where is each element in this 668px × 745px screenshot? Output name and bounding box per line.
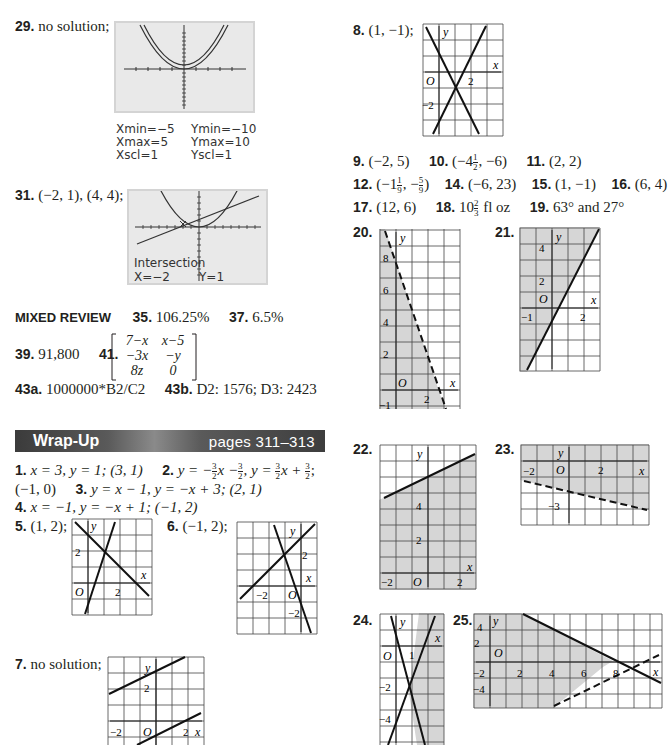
- svg-text:−2: −2: [379, 681, 391, 693]
- svg-text:−2: −2: [288, 607, 300, 619]
- window-settings: Xmin=−5 Xmax=5 Xscl=1: [116, 123, 175, 162]
- svg-text:2: 2: [539, 275, 545, 287]
- svg-text:−4: −4: [473, 683, 485, 695]
- wrap-up-pages: pages 311–313: [209, 433, 315, 450]
- svg-text:4: 4: [416, 500, 422, 512]
- graph-5: y 2 O 2 x: [71, 518, 153, 616]
- wrap-up-title: Wrap-Up: [33, 432, 99, 450]
- answer-29: 29. no solution;: [15, 18, 109, 35]
- graph-7: y 2 −2 O 2 x: [107, 656, 205, 745]
- svg-text:8: 8: [383, 252, 389, 264]
- graph-24: y x O 1 −2 −4: [379, 613, 445, 745]
- svg-text:y: y: [442, 25, 449, 39]
- svg-text:x: x: [638, 464, 645, 478]
- graph-20: y 8 6 4 2 O x 2 −1: [379, 229, 461, 409]
- svg-text:y: y: [399, 231, 406, 245]
- svg-text:2: 2: [468, 75, 474, 87]
- svg-text:O: O: [143, 725, 152, 739]
- graph-23: y −2 O 2 x −3: [520, 444, 650, 526]
- svg-text:O: O: [288, 588, 297, 602]
- svg-text:2: 2: [302, 549, 308, 561]
- svg-text:−2: −2: [422, 99, 434, 111]
- svg-text:O: O: [494, 646, 503, 660]
- svg-text:y: y: [90, 519, 97, 533]
- label-25: 25.: [453, 612, 472, 629]
- svg-text:y: y: [144, 661, 151, 675]
- svg-text:4: 4: [549, 667, 555, 679]
- label-22: 22.: [353, 441, 372, 458]
- answer-8: 8. (1, −1);: [353, 22, 414, 39]
- svg-text:2: 2: [144, 682, 150, 694]
- svg-text:O: O: [556, 463, 565, 477]
- svg-text:−2: −2: [523, 465, 535, 477]
- svg-text:−2: −2: [110, 726, 122, 738]
- answer-39-41: 39. 91,800 41.: [15, 346, 118, 363]
- svg-text:4: 4: [477, 621, 483, 633]
- svg-text:x: x: [140, 568, 147, 582]
- answers-17-19: 17. (12, 6) 18. 1023 fl oz 19. 63° and 2…: [353, 199, 624, 218]
- answer-43: 43a. 1000000*B2/C2 43b. D2: 1576; D3: 24…: [15, 381, 317, 398]
- answer-3: (−1, 0) 3. y = x − 1, y = −x + 3; (2, 1): [15, 481, 262, 498]
- svg-text:x: x: [466, 560, 473, 574]
- label-23: 23.: [495, 441, 514, 458]
- svg-text:x: x: [305, 571, 312, 585]
- svg-text:x: x: [449, 376, 456, 390]
- svg-text:y: y: [399, 615, 406, 629]
- answer-7: 7. no solution;: [15, 656, 102, 673]
- wrap-up-banner: Wrap-Up pages 311–313: [15, 430, 325, 452]
- svg-text:2: 2: [457, 576, 463, 588]
- svg-text:2: 2: [383, 348, 389, 360]
- graph-25: y 4 2 O 2 4 6 8 x −2 −4: [473, 613, 663, 709]
- answer-6: 6. (−1, 2);: [167, 518, 228, 535]
- svg-text:2: 2: [598, 464, 604, 476]
- svg-text:y: y: [557, 446, 564, 460]
- svg-text:2: 2: [75, 546, 81, 558]
- svg-text:2: 2: [517, 667, 523, 679]
- svg-text:O: O: [398, 376, 407, 390]
- matrix-41: 7−x −3x 8z x−5 −y 0: [111, 333, 197, 381]
- svg-text:y: y: [289, 524, 296, 538]
- svg-text:2: 2: [474, 637, 480, 649]
- svg-text:y: y: [492, 614, 499, 628]
- svg-text:O: O: [413, 575, 422, 589]
- answer-5: 5. (1, 2);: [15, 518, 67, 535]
- svg-text:y: y: [416, 447, 423, 461]
- mixed-review-line: MIXED REVIEW 35. 106.25% 37. 6.5%: [15, 309, 284, 326]
- svg-text:−2: −2: [256, 589, 268, 601]
- svg-text:2: 2: [416, 534, 422, 546]
- calculator-screen-29: [114, 21, 255, 113]
- svg-text:4: 4: [383, 316, 389, 328]
- svg-text:O: O: [426, 74, 435, 88]
- svg-text:x: x: [492, 58, 499, 72]
- svg-text:−2: −2: [381, 576, 393, 588]
- graph-22: y 4 2 x −2 O 2: [379, 444, 477, 590]
- svg-text:O: O: [383, 649, 392, 663]
- svg-text:O: O: [539, 292, 548, 306]
- svg-text:8: 8: [613, 667, 619, 679]
- svg-text:−3: −3: [548, 500, 560, 512]
- svg-text:4: 4: [539, 242, 545, 254]
- label-20: 20.: [353, 224, 372, 241]
- svg-text:y: y: [555, 230, 562, 244]
- answers-12-16: 12. (−119, −59) 14. (−6, 23) 15. (1, −1)…: [353, 176, 667, 195]
- svg-text:x: x: [590, 293, 597, 307]
- svg-text:6: 6: [383, 284, 389, 296]
- graph-8: y x O 2 −2: [422, 23, 504, 137]
- svg-text:−1: −1: [521, 311, 533, 323]
- window-settings-y: Ymin=−10 Ymax=10 Yscl=1: [191, 123, 256, 162]
- svg-text:2: 2: [580, 311, 586, 323]
- answers-9-11: 9. (−2, 5) 10. (−412, −6) 11. (2, 2): [353, 153, 582, 172]
- mixed-review-heading: MIXED REVIEW: [15, 310, 111, 325]
- svg-text:x: x: [652, 665, 659, 679]
- answer-1-2: 1. x = 3, y = 1; (3, 1) 2. y = −32x −32,…: [15, 462, 315, 481]
- label-21: 21.: [495, 224, 514, 241]
- svg-text:1: 1: [409, 649, 415, 661]
- answer-4: 4. x = −1, y = −x + 1; (−1, 2): [15, 499, 197, 516]
- graph-6: y 2 −2 O x −2: [236, 521, 318, 635]
- label-24: 24.: [353, 612, 372, 629]
- graph-21: y 4 2 O x −1 2: [519, 227, 601, 372]
- svg-text:x: x: [434, 631, 441, 645]
- svg-text:2: 2: [115, 586, 121, 598]
- svg-text:−2: −2: [473, 667, 485, 679]
- answer-31: 31. (−2, 1), (4, 4);: [15, 187, 123, 204]
